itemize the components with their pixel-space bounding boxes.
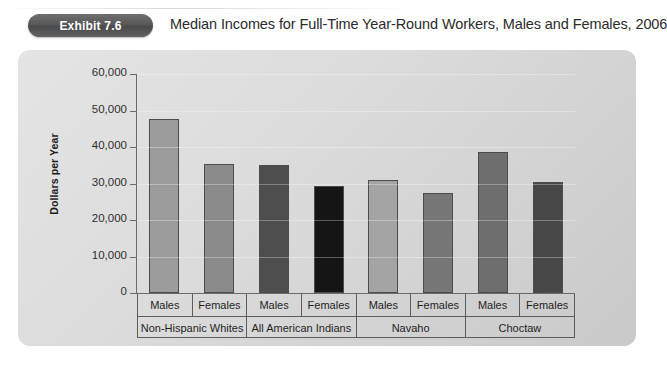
group-label: All American Indians	[247, 317, 356, 338]
chart-panel: Dollars per Year 010,00020,00030,00040,0…	[18, 50, 636, 346]
plot-area: Dollars per Year 010,00020,00030,00040,0…	[18, 50, 636, 346]
bar	[149, 119, 179, 293]
header-divider	[0, 8, 420, 9]
exhibit-header: Exhibit 7.6 Median Incomes for Full-Time…	[0, 0, 656, 50]
y-axis-tick: 0	[18, 293, 137, 294]
gridline	[137, 111, 575, 112]
subcategory-label: Males	[138, 294, 193, 316]
y-axis-tick-label: 60,000	[29, 66, 137, 78]
gridline	[137, 74, 575, 75]
subcategory-label: Females	[520, 294, 574, 316]
exhibit-badge: Exhibit 7.6	[28, 14, 153, 37]
subcategory-label: Males	[247, 294, 302, 316]
group-row: Non-Hispanic WhitesAll American IndiansN…	[138, 316, 574, 338]
chart-title: Median Incomes for Full-Time Year-Round …	[170, 16, 667, 32]
group-label: Choctaw	[466, 317, 574, 338]
subcategory-label: Males	[466, 294, 521, 316]
group-label: Navaho	[357, 317, 466, 338]
bar	[423, 193, 453, 293]
bar	[478, 152, 508, 293]
bar	[368, 180, 398, 293]
y-axis-tick: 30,000	[18, 184, 137, 185]
gridline	[137, 220, 575, 221]
subcategory-label: Females	[302, 294, 357, 316]
y-axis-tick-label: 30,000	[29, 176, 137, 188]
group-label: Non-Hispanic Whites	[138, 317, 247, 338]
y-axis-tick: 50,000	[18, 111, 137, 112]
gridline	[137, 184, 575, 185]
subcategory-label: Males	[357, 294, 412, 316]
y-axis-tick-label: 0	[29, 285, 137, 297]
gridline	[137, 147, 575, 148]
bar	[533, 182, 563, 293]
subcategory-label: Females	[411, 294, 466, 316]
y-axis-tick: 40,000	[18, 147, 137, 148]
category-label-table: MalesFemalesMalesFemalesMalesFemalesMale…	[137, 294, 575, 338]
subcategory-row: MalesFemalesMalesFemalesMalesFemalesMale…	[138, 294, 574, 316]
subcategory-label: Females	[193, 294, 248, 316]
y-axis-tick: 20,000	[18, 220, 137, 221]
y-axis-tick-label: 20,000	[29, 212, 137, 224]
y-axis-tick-label: 40,000	[29, 139, 137, 151]
bar	[314, 186, 344, 293]
y-axis-tick: 60,000	[18, 74, 137, 75]
y-axis-tick: 10,000	[18, 257, 137, 258]
y-axis-tick-label: 10,000	[29, 249, 137, 261]
gridline	[137, 257, 575, 258]
y-axis-tick-label: 50,000	[29, 103, 137, 115]
